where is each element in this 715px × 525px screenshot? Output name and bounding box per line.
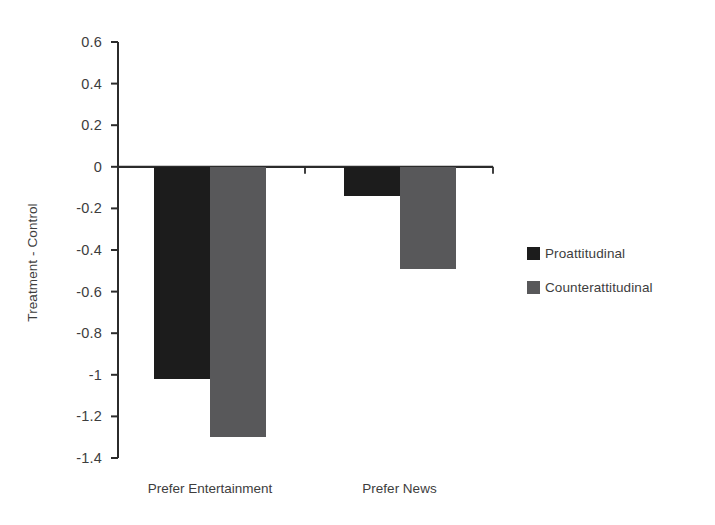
chart-legend: ProattitudinalCounterattitudinal (527, 236, 653, 304)
legend-label: Counterattitudinal (545, 280, 653, 295)
bar (400, 167, 456, 269)
legend-swatch (527, 247, 540, 260)
bar (344, 167, 400, 196)
bar-chart: Treatment - Control 0.60.40.20-0.2-0.4-0… (0, 0, 715, 525)
legend-swatch (527, 281, 540, 294)
bar (154, 167, 210, 379)
bar (210, 167, 266, 437)
x-axis-category-label: Prefer Entertainment (148, 481, 273, 496)
plot-area (118, 42, 493, 458)
legend-item: Counterattitudinal (527, 270, 653, 304)
legend-item: Proattitudinal (527, 236, 653, 270)
x-axis-category-label: Prefer News (362, 481, 436, 496)
legend-label: Proattitudinal (545, 246, 625, 261)
